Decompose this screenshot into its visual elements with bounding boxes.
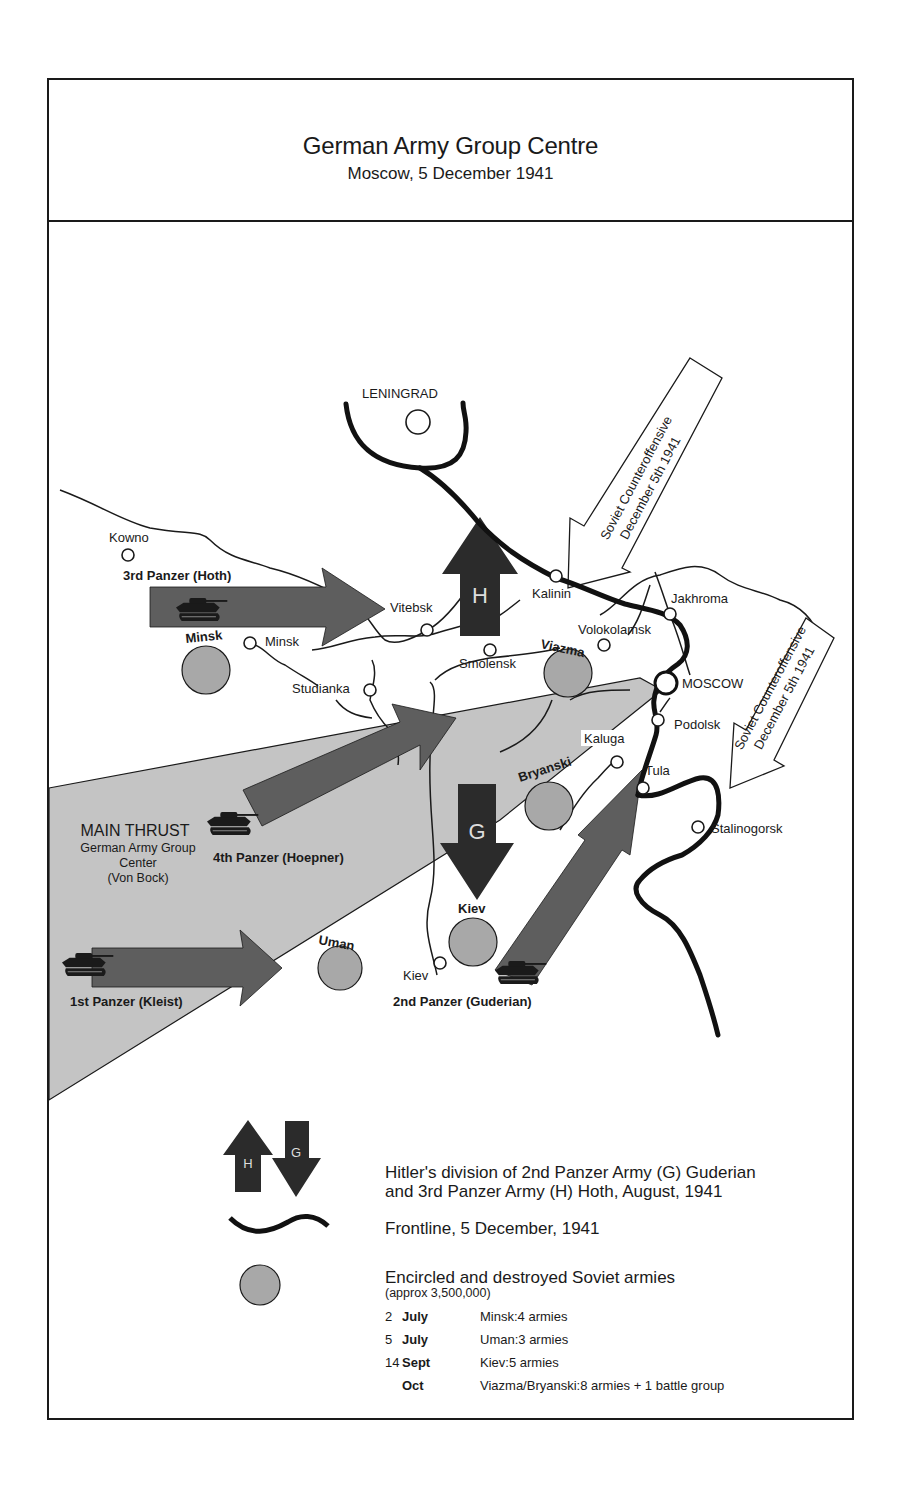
- h-arrow[interactable]: [442, 517, 518, 636]
- pocket-minsk[interactable]: [182, 646, 230, 694]
- legend-row-desc: Kiev:5 armies: [480, 1355, 559, 1370]
- legend-division-icon: H G: [223, 1120, 321, 1197]
- pocket-bryanski[interactable]: [525, 782, 573, 830]
- city-label-volokolamsk: Volokolamsk: [578, 622, 651, 637]
- legend-row-month: July: [402, 1309, 428, 1324]
- main-thrust-line3: (Von Bock): [107, 871, 168, 885]
- legend-frontline-text: Frontline, 5 December, 1941: [385, 1219, 600, 1238]
- city-label-podolsk: Podolsk: [674, 717, 721, 732]
- pocket-label-kiev: Kiev: [458, 901, 486, 916]
- moscow-marker[interactable]: [655, 672, 677, 694]
- city-label-kiev: Kiev: [403, 968, 429, 983]
- main-thrust-line1: German Army Group: [80, 841, 195, 855]
- legend-pocket-icon: [240, 1265, 280, 1305]
- city-label-minsk: Minsk: [265, 634, 299, 649]
- main-thrust-line2: Center: [119, 856, 157, 870]
- legend-row-desc: Minsk:4 armies: [480, 1309, 567, 1324]
- legend-row-month: July: [402, 1332, 428, 1347]
- legend-division-line2: and 3rd Panzer Army (H) Hoth, August, 19…: [385, 1182, 756, 1201]
- city-label-tula: Tula: [645, 763, 671, 778]
- army-label-second-panzer: 2nd Panzer (Guderian): [393, 994, 532, 1009]
- pocket-kiev[interactable]: [449, 918, 497, 966]
- legend-row-day: 14: [385, 1355, 399, 1370]
- legend-division-text: Hitler's division of 2nd Panzer Army (G)…: [385, 1163, 756, 1201]
- city-label-kowno: Kowno: [109, 530, 149, 545]
- city-label-kaluga: Kaluga: [584, 731, 625, 746]
- legend-g-label: G: [291, 1145, 301, 1160]
- legend-row-day: 2: [385, 1309, 392, 1324]
- city-label-jakhroma: Jakhroma: [671, 591, 729, 606]
- legend-row-desc: Viazma/Bryanski:8 armies + 1 battle grou…: [480, 1378, 724, 1393]
- pocket-label-minsk: Minsk: [185, 627, 224, 646]
- army-label-third-panzer: 3rd Panzer (Hoth): [123, 568, 231, 583]
- legend-row-month: Oct: [402, 1378, 424, 1393]
- h-arrow-label: H: [472, 583, 488, 608]
- legend-h-label: H: [243, 1156, 252, 1171]
- city-label-studianka: Studianka: [292, 681, 351, 696]
- army-label-fourth-panzer: 4th Panzer (Hoepner): [213, 850, 344, 865]
- army-label-first-panzer: 1st Panzer (Kleist): [70, 994, 183, 1009]
- city-label-vitebsk: Vitebsk: [390, 600, 433, 615]
- legend-row-desc: Uman:3 armies: [480, 1332, 568, 1347]
- pocket-uman[interactable]: [318, 946, 362, 990]
- legend-frontline-icon: [230, 1216, 328, 1231]
- city-label-leningrad: LENINGRAD: [362, 386, 438, 401]
- legend-encircled-title: Encircled and destroyed Soviet armies: [385, 1268, 675, 1287]
- legend-row-day: 5: [385, 1332, 392, 1347]
- city-label-stalinogorsk: Stalinogorsk: [711, 821, 783, 836]
- pocket-label-uman: Uman: [317, 932, 355, 953]
- city-label-kalinin: Kalinin: [532, 586, 571, 601]
- city-label-moscow: MOSCOW: [682, 676, 744, 691]
- legend-row-month: Sept: [402, 1355, 430, 1370]
- main-thrust-title: MAIN THRUST: [80, 822, 189, 839]
- legend-division-line1: Hitler's division of 2nd Panzer Army (G)…: [385, 1163, 756, 1182]
- g-arrow-label: G: [468, 819, 485, 844]
- legend-encircled-note: (approx 3,500,000): [385, 1286, 491, 1300]
- city-label-smolensk: Smolensk: [459, 656, 517, 671]
